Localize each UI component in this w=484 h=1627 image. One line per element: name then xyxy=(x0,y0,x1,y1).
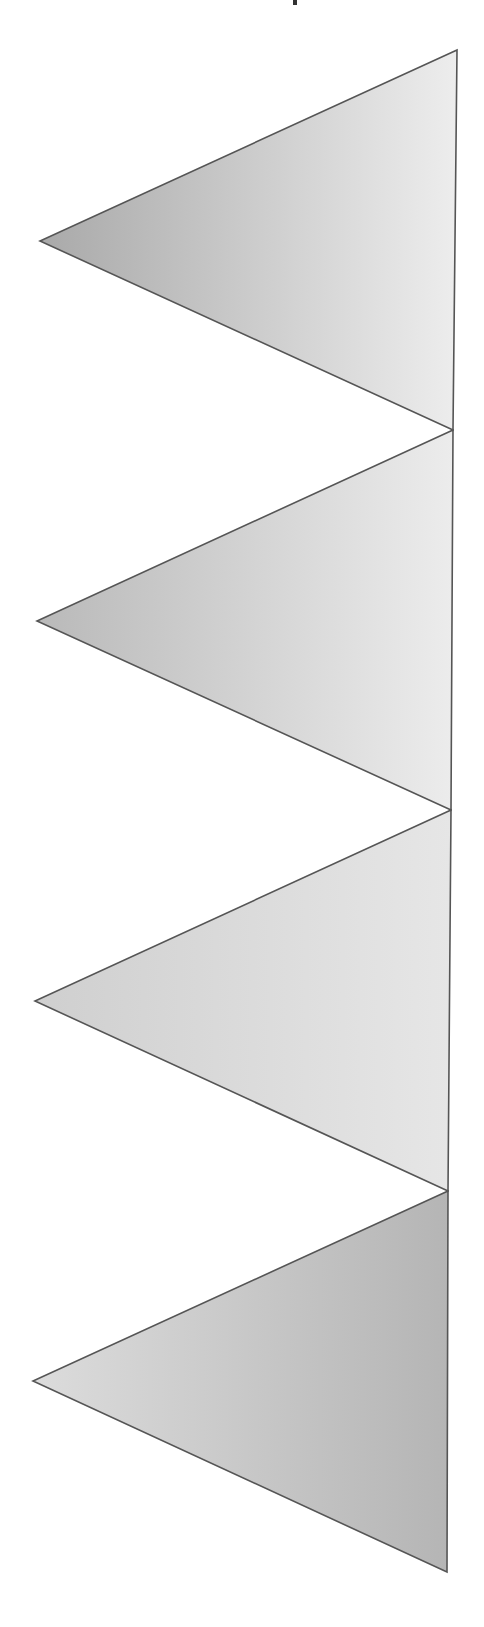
triangle-stack xyxy=(33,50,457,1572)
triangle-4 xyxy=(33,1191,448,1572)
stacked-triangles-diagram xyxy=(0,0,484,1627)
triangle-3 xyxy=(35,810,451,1191)
triangle-1 xyxy=(40,50,457,430)
triangle-2 xyxy=(37,430,453,810)
